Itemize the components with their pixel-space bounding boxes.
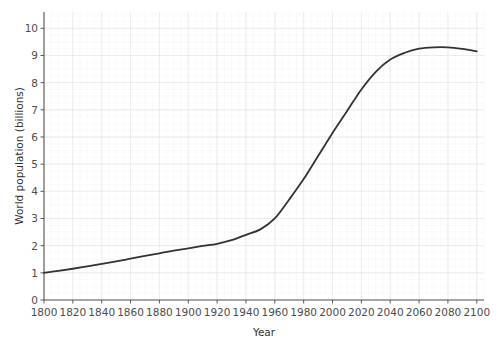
y-tick-label: 7: [31, 104, 38, 116]
y-tick-label: 4: [31, 185, 38, 197]
y-tick-label: 0: [31, 294, 38, 306]
y-tick-label: 2: [31, 240, 38, 252]
x-tick-label: 1940: [233, 306, 260, 318]
y-axis-title: World population (billions): [13, 87, 25, 225]
x-tick-label: 2080: [435, 306, 462, 318]
plot-canvas: [0, 0, 499, 347]
y-tick-label: 5: [31, 158, 38, 170]
x-tick-label: 1820: [59, 306, 86, 318]
x-tick-label: 1920: [204, 306, 231, 318]
x-tick-label: 1800: [31, 306, 58, 318]
y-tick-label: 6: [31, 131, 38, 143]
x-tick-label: 2060: [406, 306, 433, 318]
y-tick-label: 8: [31, 77, 38, 89]
x-tick-label: 1840: [88, 306, 115, 318]
y-tick-label: 1: [31, 267, 38, 279]
axis-tick-marks: [41, 28, 477, 303]
x-tick-label: 1860: [117, 306, 144, 318]
x-tick-label: 2100: [463, 306, 490, 318]
x-tick-label: 2000: [319, 306, 346, 318]
x-axis-title: Year: [0, 326, 499, 338]
x-tick-label: 2020: [348, 306, 375, 318]
chart-figure: 012345678910 180018201840186018801900192…: [0, 0, 499, 347]
x-tick-label: 1880: [146, 306, 173, 318]
x-tick-label: 2040: [377, 306, 404, 318]
x-tick-label: 1960: [261, 306, 288, 318]
x-tick-label: 1980: [290, 306, 317, 318]
major-gridlines: [44, 12, 484, 300]
y-tick-label: 10: [25, 22, 38, 34]
y-tick-label: 9: [31, 49, 38, 61]
y-tick-label: 3: [31, 212, 38, 224]
x-tick-label: 1900: [175, 306, 202, 318]
